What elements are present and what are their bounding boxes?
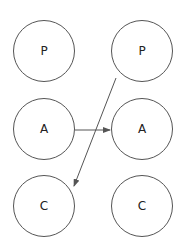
node-label: C (138, 199, 146, 213)
node-label: P (40, 44, 47, 58)
node-c-right: C (111, 175, 173, 237)
node-p-left: P (13, 20, 75, 82)
node-label: P (138, 44, 145, 58)
edge-p-right-to-c-left (74, 78, 116, 186)
node-label: C (40, 199, 48, 213)
node-label: A (138, 122, 146, 136)
node-a-left: A (13, 98, 75, 160)
node-p-right: P (111, 20, 173, 82)
node-label: A (40, 122, 48, 136)
node-a-right: A (111, 98, 173, 160)
node-c-left: C (13, 175, 75, 237)
